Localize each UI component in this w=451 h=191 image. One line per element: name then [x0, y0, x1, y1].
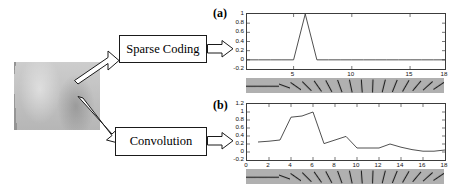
gabor-filter-icon: [411, 78, 422, 93]
gabor-filter-icon: [279, 78, 290, 93]
gabor-filter-icon: [257, 78, 268, 93]
y-tick-label: 0.4: [235, 132, 244, 138]
y-tick-label: 0: [241, 148, 244, 154]
panel-a-plot: [246, 13, 446, 70]
gabor-filter-icon: [378, 169, 389, 184]
process-box-convolution-label: Convolution: [130, 134, 193, 149]
panel-a-y-axis-labels: -0.200.20.40.60.81: [229, 13, 244, 68]
process-box-convolution[interactable]: Convolution: [115, 127, 207, 156]
y-tick-label: 1: [241, 108, 244, 114]
y-tick-label: -0.2: [233, 156, 244, 162]
x-tick-label: 18: [441, 162, 448, 168]
gabor-filter-icon: [400, 169, 411, 184]
gabor-filter-icon: [312, 78, 323, 93]
x-tick-label: 10: [353, 162, 360, 168]
gabor-filter-icon: [422, 78, 433, 93]
gabor-filter-icon: [433, 169, 444, 184]
process-box-sparse-coding-label: Sparse Coding: [126, 42, 199, 57]
y-tick-label: 0.2: [235, 47, 244, 53]
y-tick-label: 1.2: [235, 100, 244, 106]
process-box-sparse-coding[interactable]: Sparse Coding: [119, 35, 207, 63]
x-tick-label: 15: [406, 71, 413, 77]
gabor-filter-icon: [378, 78, 389, 93]
panel-a-line-chart: [247, 14, 445, 69]
gabor-filter-icon: [246, 78, 257, 93]
gabor-filter-icon: [268, 78, 279, 93]
gabor-filter-icon: [334, 169, 345, 184]
gabor-filter-icon: [411, 169, 422, 184]
gabor-filter-icon: [257, 169, 268, 184]
gabor-filter-icon: [279, 169, 290, 184]
gabor-filter-icon: [290, 78, 301, 93]
gabor-filter-icon: [301, 169, 312, 184]
panel-b-plot: [246, 103, 446, 161]
x-tick-label: 10: [347, 71, 354, 77]
gabor-filter-icon: [268, 169, 279, 184]
x-tick-label: 0: [244, 162, 247, 168]
y-tick-label: 0.4: [235, 37, 244, 43]
gabor-filter-icon: [433, 78, 444, 93]
gabor-filter-icon: [334, 78, 345, 93]
gabor-filter-icon: [246, 169, 257, 184]
x-tick-label: 4: [288, 162, 291, 168]
x-tick-label: 8: [332, 162, 335, 168]
y-tick-label: 0.8: [235, 116, 244, 122]
x-tick-label: 12: [375, 162, 382, 168]
y-tick-label: -0.2: [233, 65, 244, 71]
gabor-filter-icon: [312, 169, 323, 184]
gabor-filter-icon: [345, 169, 356, 184]
panel-b-gabor-filter-strip: [246, 169, 444, 184]
x-tick-label: 6: [310, 162, 313, 168]
gabor-filter-icon: [356, 78, 367, 93]
figure-canvas: Sparse Coding Convolution (a) -0.200.20.…: [0, 0, 451, 191]
panel-a-tag: (a): [213, 6, 227, 21]
y-tick-label: 0: [241, 56, 244, 62]
gabor-filter-icon: [323, 78, 334, 93]
gabor-filter-icon: [400, 78, 411, 93]
gabor-filter-icon: [389, 78, 400, 93]
x-tick-label: 18: [441, 71, 448, 77]
panel-b-tag: (b): [213, 98, 228, 113]
gabor-filter-icon: [367, 78, 378, 93]
y-tick-label: 1: [241, 10, 244, 16]
gabor-filter-icon: [367, 169, 378, 184]
gabor-filter-icon: [301, 78, 312, 93]
gabor-filter-icon: [389, 169, 400, 184]
x-tick-label: 5: [291, 71, 294, 77]
y-tick-label: 0.8: [235, 19, 244, 25]
gabor-filter-icon: [422, 169, 433, 184]
gabor-filter-icon: [323, 169, 334, 184]
x-tick-label: 16: [419, 162, 426, 168]
gabor-filter-icon: [345, 78, 356, 93]
y-tick-label: 0.2: [235, 140, 244, 146]
panel-b-line-chart: [247, 104, 445, 160]
x-tick-label: 2: [266, 162, 269, 168]
panel-b-y-axis-labels: -0.200.20.40.60.811.2: [228, 103, 244, 159]
panel-a-gabor-filter-strip: [246, 78, 444, 93]
gabor-filter-icon: [356, 169, 367, 184]
gabor-filter-icon: [290, 169, 301, 184]
y-tick-label: 0.6: [235, 124, 244, 130]
y-tick-label: 0.6: [235, 28, 244, 34]
x-tick-label: 14: [397, 162, 404, 168]
